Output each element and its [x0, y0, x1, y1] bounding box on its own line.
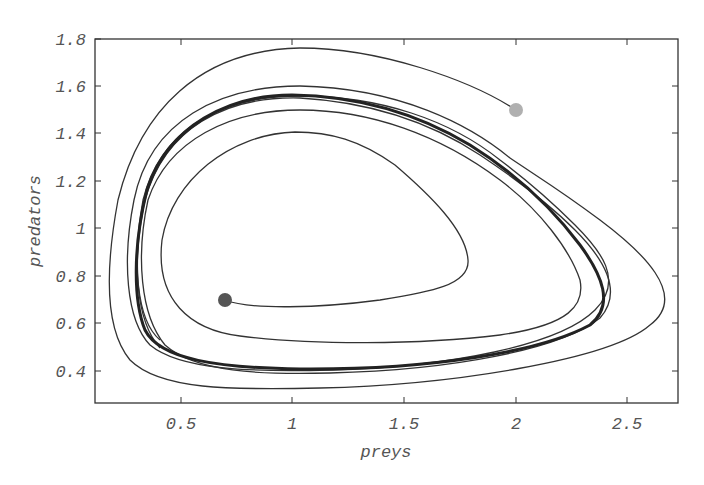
plot-frame	[95, 39, 678, 403]
outer-start-marker	[509, 103, 523, 117]
y-tick-label: 0.8	[55, 268, 86, 287]
y-tick-label: 1.2	[55, 173, 86, 192]
trajectories	[109, 48, 664, 389]
y-tick-label: 1.8	[55, 31, 86, 50]
y-tick-label: 0.4	[55, 363, 86, 382]
y-tick-labels: 0.4 0.6 0.8 1 1.2 1.4 1.6 1.8	[55, 31, 86, 382]
y-axis-label: predators	[26, 175, 45, 268]
x-tick-label: 2.5	[612, 415, 643, 434]
x-tick-label: 2	[511, 415, 521, 434]
y-tick-label: 1.6	[55, 78, 86, 97]
phase-plot: 0.5 1 1.5 2 2.5 0.4 0.6 0.8 1 1.2 1.4 1.…	[0, 0, 704, 485]
x-tick-label: 0.5	[166, 415, 197, 434]
x-tick-labels: 0.5 1 1.5 2 2.5	[166, 415, 643, 434]
y-tick-label: 0.6	[55, 315, 86, 334]
y-tick-label: 1.4	[55, 125, 86, 144]
x-axis-label: preys	[359, 443, 411, 462]
y-tick-label: 1	[76, 220, 86, 239]
outer-trajectory	[109, 48, 664, 389]
inner-start-marker	[218, 293, 232, 307]
x-tick-label: 1.5	[389, 415, 420, 434]
inner-trajectory	[137, 98, 610, 374]
x-tick-label: 1	[287, 415, 297, 434]
